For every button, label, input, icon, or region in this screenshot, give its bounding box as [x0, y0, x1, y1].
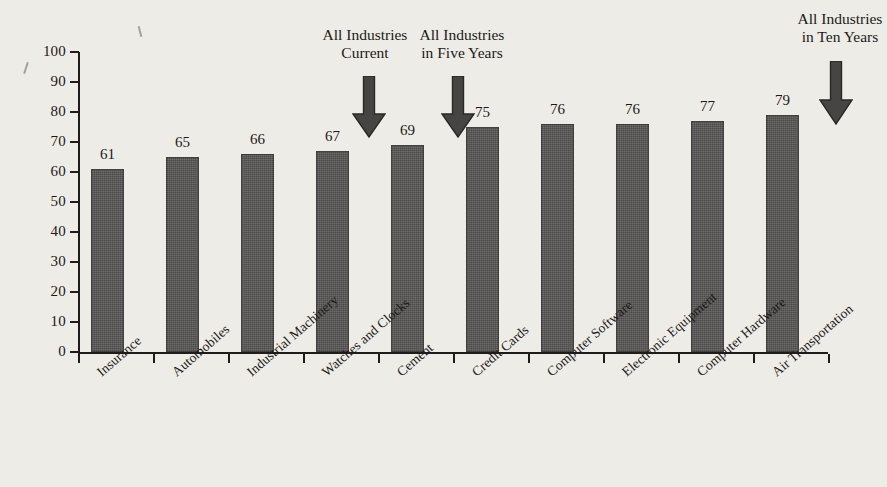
- y-axis-tick-label-text: 30: [32, 254, 66, 269]
- x-axis-tick: [753, 354, 755, 363]
- x-axis-tick: [153, 354, 155, 363]
- down-arrow-icon: [819, 61, 853, 129]
- y-axis-tick-label-text: 100: [32, 44, 66, 59]
- y-axis-tick-label-text: 50: [32, 194, 66, 209]
- y-axis-tick-label-text: 20: [32, 284, 66, 299]
- annotation-all-industries-five-years: All Industries in Five Years: [382, 26, 542, 61]
- annotation-line-2: in Five Years: [382, 44, 542, 62]
- scan-artifact-mark: [23, 62, 29, 74]
- annotation-all-industries-ten-years: All Industries in Ten Years: [760, 10, 887, 45]
- bar-value-label: 79: [753, 93, 813, 108]
- scan-artifact-mark: [138, 26, 143, 37]
- bar-value-label: 66: [228, 132, 288, 147]
- y-axis-tick-label-text: 80: [32, 104, 66, 119]
- y-axis-tick-label-text: 0: [32, 344, 66, 359]
- down-arrow-icon: [352, 76, 386, 142]
- x-axis-tick: [678, 354, 680, 363]
- bar: [166, 157, 199, 352]
- bar-value-label: 76: [603, 102, 663, 117]
- bar-value-label: 76: [528, 102, 588, 117]
- x-axis-tick: [603, 354, 605, 363]
- x-axis-tick: [528, 354, 530, 363]
- x-axis-tick: [378, 354, 380, 363]
- y-axis-tick-label: 30: [28, 254, 66, 269]
- y-axis-tick-label: 10: [28, 314, 66, 329]
- y-axis-tick-label: 90: [28, 74, 66, 89]
- y-axis-tick-label-text: 10: [32, 314, 66, 329]
- y-axis-tick-label: 70: [28, 134, 66, 149]
- y-axis-tick-label-text: 90: [32, 74, 66, 89]
- y-axis-tick-label-text: 70: [32, 134, 66, 149]
- x-axis-tick: [828, 354, 830, 363]
- bar-value-label: 69: [378, 123, 438, 138]
- bar: [241, 154, 274, 352]
- y-axis-tick-label-text: 60: [32, 164, 66, 179]
- annotation-line-2: in Ten Years: [760, 28, 887, 46]
- y-axis-tick-label: 0: [28, 344, 66, 359]
- bar-value-label: 77: [678, 99, 738, 114]
- y-axis-tick-label: 20: [28, 284, 66, 299]
- x-axis-tick: [228, 354, 230, 363]
- y-axis-tick-label: 50: [28, 194, 66, 209]
- down-arrow-icon: [441, 76, 475, 142]
- x-axis-tick: [303, 354, 305, 363]
- x-axis-tick: [453, 354, 455, 363]
- y-axis-tick-label: 60: [28, 164, 66, 179]
- bar: [91, 169, 124, 352]
- annotation-line-1: All Industries: [382, 26, 542, 44]
- y-axis-tick-label: 40: [28, 224, 66, 239]
- bar: [466, 127, 499, 352]
- x-axis-tick: [78, 354, 80, 363]
- y-axis-tick-label: 80: [28, 104, 66, 119]
- bar-value-label: 61: [78, 147, 138, 162]
- y-axis-tick-label: 100: [28, 44, 66, 59]
- y-axis-tick-label-text: 40: [32, 224, 66, 239]
- bar-value-label: 65: [153, 135, 213, 150]
- annotation-line-1: All Industries: [760, 10, 887, 28]
- bar: [541, 124, 574, 352]
